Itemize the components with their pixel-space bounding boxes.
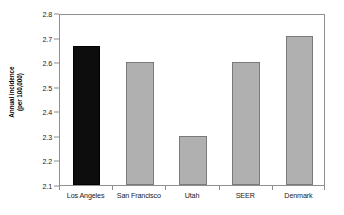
x-axis-tick-label: Denmark xyxy=(284,191,312,200)
y-axis-tick-label: 2.7 xyxy=(26,34,52,43)
x-axis-tick-labels: Los AngelesSan FranciscoUtahSEERDenmark xyxy=(59,191,325,205)
y-axis-tick-label: 2.8 xyxy=(26,10,52,19)
bar-denmark xyxy=(286,36,314,185)
y-axis-tick-label: 2.6 xyxy=(26,59,52,68)
x-axis-tick-label: San Francisco xyxy=(117,191,161,200)
bar-seer xyxy=(232,62,260,185)
x-axis-tick-mark xyxy=(324,186,325,190)
plot-frame xyxy=(59,14,325,186)
y-axis-title-line-1: Annual incidence xyxy=(9,67,16,118)
x-axis-tick-label: SEER xyxy=(236,191,255,200)
y-axis-title-text: Annual incidence (per 100,000) xyxy=(9,67,25,118)
x-axis-tick-mark xyxy=(219,186,220,190)
bar-utah xyxy=(179,136,207,185)
y-axis-tick-labels: 2.12.22.32.42.52.62.72.8 xyxy=(26,14,52,186)
x-axis-tick-label: Utah xyxy=(185,191,200,200)
y-axis-title-line-2: (per 100,000) xyxy=(17,74,24,112)
y-axis-tick-label: 2.1 xyxy=(26,182,52,191)
bar-los-angeles xyxy=(73,46,101,185)
y-axis-tick-label: 2.2 xyxy=(26,157,52,166)
y-axis-tick-label: 2.5 xyxy=(26,83,52,92)
y-axis-tick-label: 2.3 xyxy=(26,132,52,141)
plot-area xyxy=(60,15,324,185)
bar-chart: Annual incidence (per 100,000) 2.12.22.3… xyxy=(0,0,344,215)
y-axis-tick-label: 2.4 xyxy=(26,108,52,117)
x-axis-tick-mark xyxy=(165,186,166,190)
x-axis-tick-mark xyxy=(112,186,113,190)
x-axis-tick-mark xyxy=(59,186,60,190)
bar-san-francisco xyxy=(126,62,154,185)
x-axis-tick-label: Los Angeles xyxy=(67,191,105,200)
x-axis-tick-mark xyxy=(272,186,273,190)
